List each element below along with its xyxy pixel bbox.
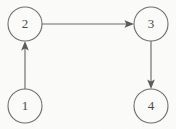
edge-3-to-4 — [147, 41, 155, 89]
edge-1-to-2 — [21, 41, 29, 89]
node-1[interactable]: 1 — [8, 89, 42, 123]
node-1-label: 1 — [22, 98, 29, 113]
graph-diagram: 2 3 1 4 — [0, 0, 176, 129]
node-4[interactable]: 4 — [134, 89, 168, 123]
node-3-label: 3 — [148, 16, 155, 31]
diagram-canvas: 2 3 1 4 — [0, 0, 176, 129]
edge-2-to-3 — [42, 20, 134, 28]
node-2[interactable]: 2 — [8, 7, 42, 41]
node-3[interactable]: 3 — [134, 7, 168, 41]
node-2-label: 2 — [22, 16, 29, 31]
node-4-label: 4 — [148, 98, 155, 113]
